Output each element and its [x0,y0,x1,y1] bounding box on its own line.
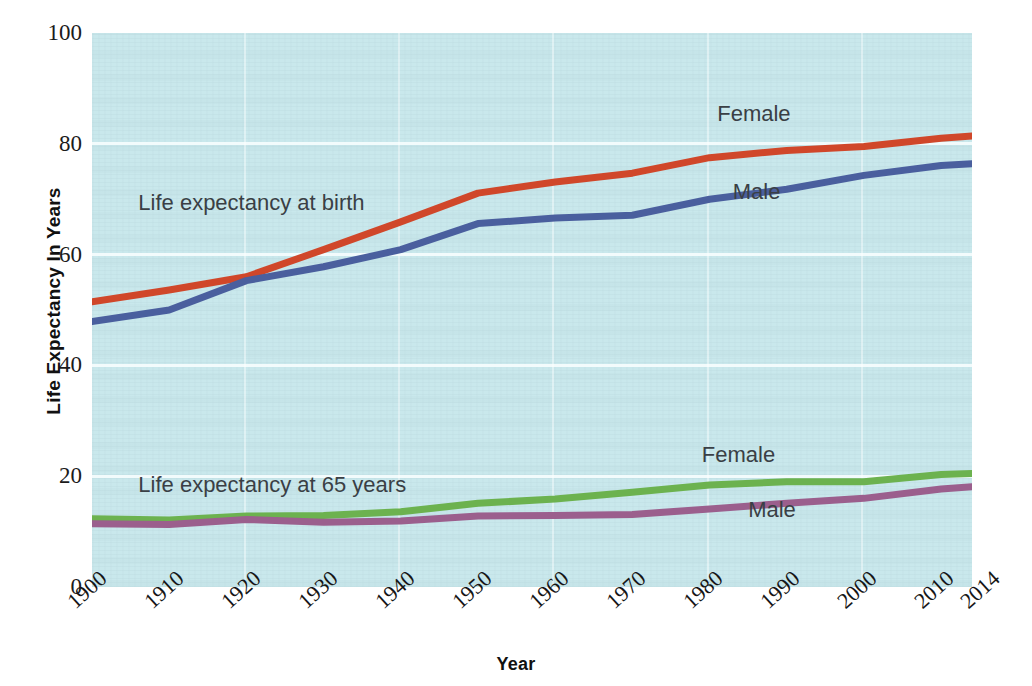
series-label-female-at-65: Female [702,442,775,468]
x-axis-title: Year [0,654,1032,675]
series-lines [92,33,972,587]
annotation-life-expectancy-at-birth: Life expectancy at birth [138,190,364,216]
plot-area: Life expectancy at birth Life expectancy… [92,33,972,587]
y-tick-label-100: 100 [22,20,82,46]
y-tick-label-20: 20 [22,463,82,489]
annotation-life-expectancy-at-65: Life expectancy at 65 years [138,472,406,498]
series-label-male-at-65: Male [748,497,796,523]
series-label-male-at-birth: Male [733,179,781,205]
chart-figure: 100 80 60 40 20 0 Life Expectancy In Yea… [0,0,1032,686]
y-axis-title: Life Expectancy In Years [43,151,65,451]
series-label-female-at-birth: Female [717,101,790,127]
